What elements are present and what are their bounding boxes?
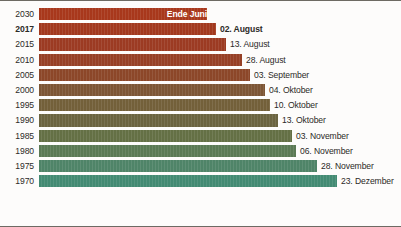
bar: [39, 130, 292, 142]
bar-value-label: 23. Dezember: [337, 175, 394, 187]
bar-track: 10. Oktober: [39, 99, 401, 111]
bar: [39, 54, 242, 66]
bar-row: 197528. November: [0, 160, 401, 175]
year-axis-label: 1975: [0, 160, 34, 172]
bar-value-label: Ende Juni: [39, 8, 212, 20]
bar-track: 13. August: [39, 38, 401, 50]
bar-value-label: 03. November: [292, 130, 349, 142]
bar-value-label: 13. August: [226, 38, 270, 50]
bar-row: 201028. August: [0, 54, 401, 69]
bar-row: 199510. Oktober: [0, 99, 401, 114]
bar-value-label: 28. August: [242, 54, 286, 66]
bar-track: Ende Juni: [39, 8, 401, 20]
year-axis-label: 2030: [0, 8, 34, 20]
year-axis-label: 2000: [0, 84, 34, 96]
horizontal-bar-chart: 2030Ende Juni201702. August201513. Augus…: [0, 0, 401, 227]
bar-rows-container: 2030Ende Juni201702. August201513. Augus…: [0, 8, 401, 190]
bar-row: 201702. August: [0, 23, 401, 38]
bar: [39, 99, 270, 111]
bar-track: 04. Oktober: [39, 84, 401, 96]
year-axis-label: 1985: [0, 130, 34, 142]
year-axis-label: 2005: [0, 69, 34, 81]
bar-row: 198006. November: [0, 145, 401, 160]
bar-row: 200503. September: [0, 69, 401, 84]
bar: [39, 114, 278, 126]
bar-track: 03. September: [39, 69, 401, 81]
bar-row: 2030Ende Juni: [0, 8, 401, 23]
bar: [39, 38, 226, 50]
bar-track: 06. November: [39, 145, 401, 157]
bar-row: 198503. November: [0, 130, 401, 145]
bar-row: 200004. Oktober: [0, 84, 401, 99]
bar: [39, 69, 250, 81]
year-axis-label: 2010: [0, 54, 34, 66]
bar: [39, 160, 317, 172]
bar-track: 13. Oktober: [39, 114, 401, 126]
bar-row: 201513. August: [0, 38, 401, 53]
year-axis-label: 2017: [0, 23, 34, 35]
bar-track: 23. Dezember: [39, 175, 401, 187]
bar: [39, 145, 296, 157]
year-axis-label: 1980: [0, 145, 34, 157]
bar-value-label: 06. November: [296, 145, 353, 157]
bar: [39, 175, 337, 187]
year-axis-label: 1970: [0, 175, 34, 187]
bar: [39, 23, 216, 35]
bar-track: 03. November: [39, 130, 401, 142]
bar-value-label: 13. Oktober: [278, 114, 326, 126]
bar-value-label: 02. August: [216, 23, 263, 35]
bar-value-label: 04. Oktober: [265, 84, 313, 96]
bar-value-label: 28. November: [317, 160, 374, 172]
bar-track: 02. August: [39, 23, 401, 35]
bar-track: 28. November: [39, 160, 401, 172]
bar-track: 28. August: [39, 54, 401, 66]
bar-value-label: 10. Oktober: [270, 99, 318, 111]
year-axis-label: 2015: [0, 38, 34, 50]
bar: [39, 84, 265, 96]
year-axis-label: 1995: [0, 99, 34, 111]
bar-row: 199013. Oktober: [0, 114, 401, 129]
bar-value-label: 03. September: [250, 69, 309, 81]
year-axis-label: 1990: [0, 114, 34, 126]
bar-row: 197023. Dezember: [0, 175, 401, 190]
